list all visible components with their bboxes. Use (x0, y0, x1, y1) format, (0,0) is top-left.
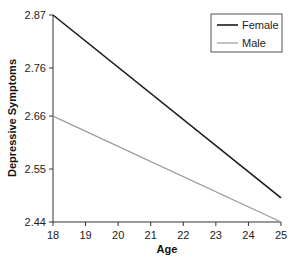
x-tick-label: 23 (210, 229, 222, 241)
y-ticks: 2.442.552.662.762.87 (25, 9, 53, 228)
x-tick-label: 21 (145, 229, 157, 241)
series-line-male (53, 116, 281, 222)
x-tick-label: 18 (47, 229, 59, 241)
x-tick-label: 22 (177, 229, 189, 241)
x-tick-label: 25 (275, 229, 287, 241)
line-chart: 2.442.552.662.762.87 1819202122232425 De… (0, 0, 292, 268)
y-tick-label: 2.44 (25, 216, 46, 228)
y-tick-label: 2.55 (25, 163, 46, 175)
y-tick-label: 2.87 (25, 9, 46, 21)
x-tick-label: 24 (242, 229, 254, 241)
y-tick-label: 2.76 (25, 62, 46, 74)
x-ticks: 1819202122232425 (47, 222, 287, 241)
legend-label-male: Male (242, 37, 266, 49)
x-tick-label: 19 (79, 229, 91, 241)
x-tick-label: 20 (112, 229, 124, 241)
y-axis-title: Depressive Symptoms (6, 59, 18, 177)
legend: Female Male (211, 14, 282, 52)
x-axis-title: Age (157, 243, 178, 255)
y-tick-label: 2.66 (25, 110, 46, 122)
legend-label-female: Female (242, 19, 279, 31)
